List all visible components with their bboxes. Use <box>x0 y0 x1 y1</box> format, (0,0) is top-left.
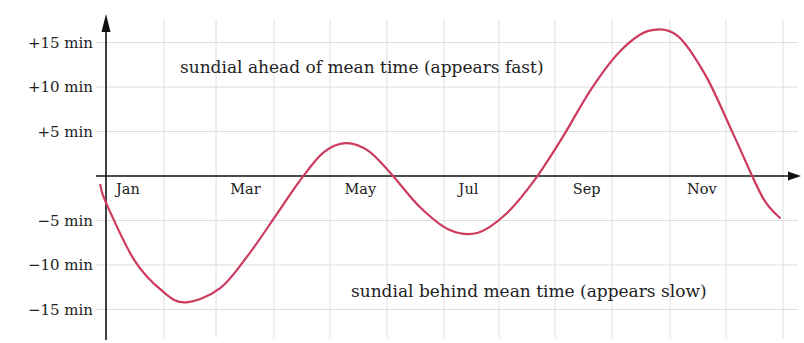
y-tick-label: +15 min <box>28 34 93 52</box>
x-tick-labels: JanMarMayJulSepNov <box>114 181 717 197</box>
y-tick-label: −5 min <box>37 212 93 230</box>
y-tick-label: +5 min <box>37 123 93 141</box>
x-axis-arrow-icon <box>788 172 801 181</box>
x-tick-label: Sep <box>573 181 601 197</box>
y-tick-labels: +15 min+10 min+5 min−5 min−10 min−15 min <box>28 34 93 319</box>
annotation-upper: sundial ahead of mean time (appears fast… <box>180 57 544 77</box>
x-tick-label: Jan <box>114 181 140 197</box>
x-tick-label: Nov <box>687 181 717 197</box>
equation-of-time-chart: +15 min+10 min+5 min−5 min−10 min−15 min… <box>0 0 804 343</box>
y-tick-label: −10 min <box>28 256 93 274</box>
x-tick-label: Jul <box>457 181 479 197</box>
annotation-lower: sundial behind mean time (appears slow) <box>351 281 707 301</box>
x-tick-label: May <box>344 181 376 197</box>
y-tick-label: −15 min <box>28 301 93 319</box>
y-axis-arrow-icon <box>102 14 111 32</box>
x-tick-label: Mar <box>230 181 260 197</box>
y-tick-label: +10 min <box>28 78 93 96</box>
